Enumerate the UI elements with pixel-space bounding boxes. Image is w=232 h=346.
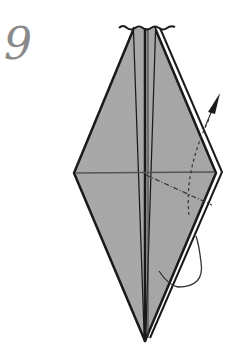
folded-paper xyxy=(74,26,222,341)
origami-diagram xyxy=(0,0,232,346)
